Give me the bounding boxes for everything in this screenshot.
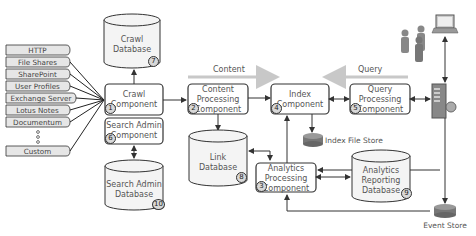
- web-server-icon: [432, 84, 456, 118]
- badge-2: 2: [188, 103, 199, 114]
- source-sharepoint: SharePoint: [6, 70, 69, 79]
- source-documentum: Documentum: [6, 118, 69, 127]
- search-admin-database-label: Search Admin Database: [105, 180, 163, 200]
- badge-4: 4: [271, 103, 282, 114]
- source-connectors: [70, 62, 104, 151]
- content-flow-label: Content: [213, 65, 245, 74]
- index-file-store-label: Index File Store: [325, 136, 395, 146]
- badge-1: 1: [105, 103, 116, 114]
- source-file-shares: File Shares: [6, 58, 69, 67]
- source-custom: Custom: [6, 147, 69, 156]
- badge-7: 7: [148, 56, 159, 67]
- badge-10: 10: [152, 199, 165, 210]
- diagram-canvas: [0, 0, 476, 236]
- index-file-store-disk: [303, 133, 323, 147]
- link-database-label: Link Database: [189, 153, 247, 173]
- event-store-label: Event Store: [420, 221, 470, 231]
- event-store-disk: [434, 204, 456, 218]
- source-user-profiles: User Profiles: [6, 82, 69, 91]
- crawl-database-label: Crawl Database: [104, 35, 160, 55]
- badge-8: 8: [236, 172, 247, 183]
- badge-3: 3: [256, 181, 267, 192]
- source-exchange-server: Exchange Server: [6, 94, 76, 103]
- more-sources-ellipsis: [37, 131, 40, 144]
- badge-9: 9: [401, 188, 412, 199]
- laptop-icon: [432, 15, 458, 33]
- source-lotus-notes: Lotus Notes: [6, 106, 69, 115]
- query-flow-label: Query: [358, 65, 382, 74]
- badge-5: 5: [350, 103, 361, 114]
- source-http: HTTP: [6, 46, 69, 55]
- users-icon: [401, 26, 425, 63]
- badge-6: 6: [105, 133, 116, 144]
